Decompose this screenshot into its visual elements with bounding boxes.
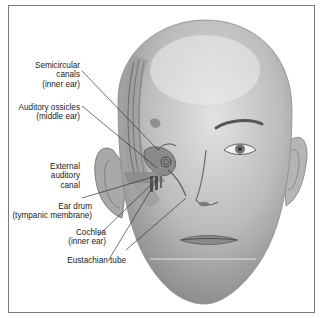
label-eustachian-tube: Eustachian tube bbox=[67, 256, 126, 265]
label-cochlea: Cochlea (inner ear) bbox=[68, 228, 106, 247]
label-auditory-ossicles: Auditory ossicles (middle ear) bbox=[19, 103, 80, 122]
label-semicircular-canals: Semicircular canals (inner ear) bbox=[35, 61, 80, 89]
label-external-auditory-canal: External auditory canal bbox=[50, 162, 80, 190]
head-illustration bbox=[0, 0, 327, 318]
label-ear-drum: Ear drum (tympanic membrane) bbox=[12, 202, 92, 221]
